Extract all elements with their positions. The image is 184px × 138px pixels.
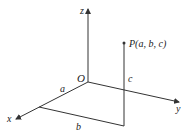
x-axis xyxy=(16,82,88,119)
segment-c-label: c xyxy=(128,73,133,84)
y-axis xyxy=(88,82,179,102)
origin-label: O xyxy=(77,72,85,84)
x-axis-label: x xyxy=(6,113,12,124)
segment-a-label: a xyxy=(60,83,65,94)
y-axis-label: y xyxy=(175,103,181,114)
segment-b-label: b xyxy=(76,121,81,132)
point-p-label: P(a, b, c) xyxy=(128,38,167,50)
segment-b xyxy=(39,107,124,126)
z-axis-label: z xyxy=(79,5,84,16)
coordinate-diagram: z y x O P(a, b, c) a b c xyxy=(0,0,184,138)
point-p-dot xyxy=(123,42,126,45)
